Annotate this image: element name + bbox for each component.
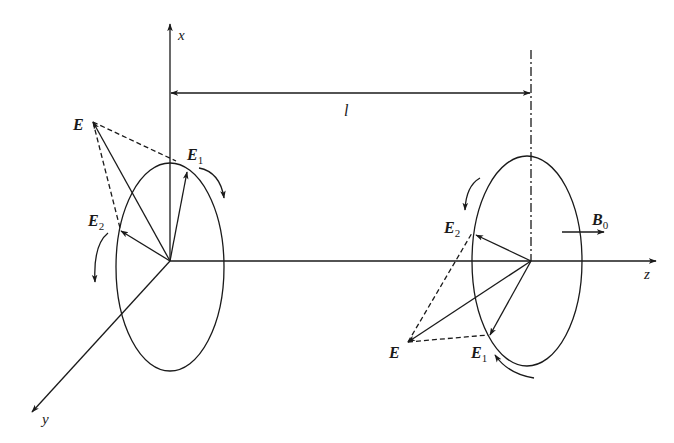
z-axis-label: z <box>643 266 650 282</box>
left-dashed-e-e1 <box>93 122 176 161</box>
left-e1-vector <box>170 172 187 261</box>
right-e1-sub: 1 <box>482 352 488 364</box>
right-e2-label: E2 <box>443 219 460 239</box>
b0-sub: 0 <box>603 219 609 231</box>
right-e1-label: E1 <box>470 344 487 364</box>
right-e2-sub: 2 <box>455 227 461 239</box>
left-e1-sub: 1 <box>198 154 204 166</box>
y-axis-label: y <box>40 411 49 427</box>
right-e1-main: E <box>470 344 482 361</box>
right-e2-vector <box>476 235 531 261</box>
right-e-label: E <box>388 344 400 361</box>
left-e1-label: E1 <box>186 146 203 166</box>
left-e1-main: E <box>186 146 198 163</box>
left-e-label: E <box>72 116 84 133</box>
right-dashed-e-e2 <box>408 233 472 342</box>
left-e2-vector <box>121 231 170 261</box>
left-e2-rotation-arrow <box>95 233 108 282</box>
left-e1-rotation-arrow <box>199 168 224 198</box>
right-e-vector <box>408 261 531 342</box>
right-dashed-e-e1 <box>408 335 488 342</box>
left-e2-label: E2 <box>87 212 104 232</box>
faraday-rotation-diagram: x z y l E E1 E2 E E1 E2 B0 <box>0 0 674 443</box>
distance-label: l <box>344 102 349 119</box>
left-e2-main: E <box>87 212 99 229</box>
x-axis-label: x <box>177 27 185 43</box>
b0-label: B0 <box>591 211 609 231</box>
left-e2-sub: 2 <box>99 220 105 232</box>
right-e2-rotation-arrow <box>465 178 480 210</box>
right-e2-main: E <box>443 219 455 236</box>
y-axis <box>32 261 170 412</box>
left-e-vector <box>93 122 170 261</box>
b0-main: B <box>591 211 603 228</box>
right-e1-vector <box>490 261 531 335</box>
